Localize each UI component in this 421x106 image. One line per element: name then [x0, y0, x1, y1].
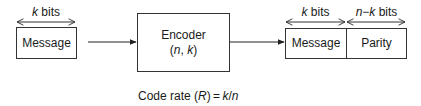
- input-message-label: Message: [22, 36, 71, 51]
- output-parity-box: Parity: [346, 28, 407, 59]
- output-parity-label: Parity: [361, 36, 392, 51]
- input-width-label: k bits: [16, 5, 76, 19]
- encoder-params: (n, k): [170, 43, 197, 58]
- output-message-width-label: k bits: [285, 5, 346, 19]
- code-rate-caption: Code rate (R) = k/n: [138, 89, 239, 103]
- output-message-label: Message: [292, 36, 341, 51]
- encoder-title: Encoder: [161, 28, 206, 43]
- output-message-box: Message: [285, 28, 347, 59]
- encoder-box: Encoder (n, k): [137, 13, 230, 72]
- input-message-box: Message: [16, 27, 77, 59]
- output-parity-width-label: n−k bits: [346, 5, 407, 19]
